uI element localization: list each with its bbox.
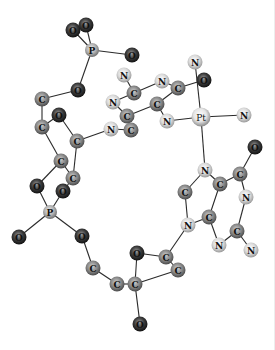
atom-label: O <box>15 233 23 243</box>
atom-label: C <box>89 264 96 274</box>
molecule-svg: OOPOOCOCCCCOOPOOCCCOCCONCNCCNNCNCONPtNNC… <box>0 0 275 350</box>
atom-label: C <box>153 100 160 110</box>
carbon-atom: C <box>171 263 186 278</box>
oxygen-atom: O <box>56 184 71 199</box>
atom-label: O <box>200 76 208 86</box>
atom-label: C <box>205 213 212 223</box>
nitrogen-atom: N <box>117 68 132 83</box>
nitrogen-atom: N <box>181 218 196 233</box>
atom-label: N <box>107 125 115 135</box>
carbon-atom: C <box>35 92 50 107</box>
oxygen-atom: O <box>75 229 90 244</box>
atom-label: C <box>131 280 138 290</box>
atom-label: N <box>191 58 199 68</box>
atom-label: O <box>128 51 136 61</box>
atom-label: O <box>74 86 82 96</box>
oxygen-atom: O <box>52 108 67 123</box>
nitrogen-atom: N <box>212 238 227 253</box>
atom-label: C <box>236 170 243 180</box>
atom-label: O <box>69 26 77 36</box>
phosphorus-atom: P <box>85 43 99 57</box>
carbon-atom: C <box>120 109 135 124</box>
carbon-atom: C <box>86 261 101 276</box>
atom-label: P <box>47 208 54 218</box>
atom-label: C <box>233 227 240 237</box>
nitrogen-atom: N <box>160 114 175 129</box>
molecule-diagram: OOPOOCOCCCCOOPOOCCCOCCONCNCCNNCNCONPtNNC… <box>0 0 275 350</box>
atom-label: C <box>127 126 134 136</box>
oxygen-atom: O <box>79 18 94 33</box>
atom-label: O <box>59 187 67 197</box>
oxygen-atom: O <box>30 179 45 194</box>
atom-label: N <box>247 246 255 256</box>
oxygen-atom: O <box>125 48 140 63</box>
nitrogen-atom: N <box>239 190 254 205</box>
oxygen-atom: O <box>71 83 86 98</box>
oxygen-atom: O <box>133 317 148 332</box>
atom-label: O <box>55 111 63 121</box>
right-border <box>274 0 275 350</box>
atom-label: C <box>174 266 181 276</box>
platinum-atom: Pt <box>192 108 211 127</box>
atom-label: C <box>130 89 137 99</box>
carbon-atom: C <box>150 97 165 112</box>
carbon-atom: C <box>159 250 174 265</box>
nitrogen-atom: N <box>198 163 213 178</box>
atom-label: N <box>120 71 128 81</box>
carbon-atom: C <box>124 123 139 138</box>
atom-label: O <box>251 143 259 153</box>
atom-label: O <box>33 182 41 192</box>
atom-label: C <box>123 112 130 122</box>
phosphorus-atom: P <box>43 205 57 219</box>
atom-label: O <box>78 232 86 242</box>
atom-label: C <box>162 253 169 263</box>
atom-label: N <box>163 117 171 127</box>
atom-label: N <box>201 166 209 176</box>
oxygen-atom: O <box>130 246 145 261</box>
carbon-atom: C <box>233 167 248 182</box>
carbon-atom: C <box>54 154 69 169</box>
atom-label: P <box>89 46 96 56</box>
atom-label: N <box>184 221 192 231</box>
nitrogen-atom: N <box>104 122 119 137</box>
oxygen-atom: O <box>66 23 81 38</box>
carbon-atom: C <box>178 185 193 200</box>
nitrogen-atom: N <box>188 55 203 70</box>
carbon-atom: C <box>110 277 125 292</box>
carbon-atom: C <box>127 86 142 101</box>
atoms-layer: OOPOOCOCCCCOOPOOCCCOCCONCNCCNNCNCONPtNNC… <box>12 18 263 332</box>
atom-label: C <box>174 84 181 94</box>
atom-label: O <box>133 249 141 259</box>
atom-label: C <box>113 280 120 290</box>
atom-label: Pt <box>196 113 206 123</box>
carbon-atom: C <box>70 134 85 149</box>
oxygen-atom: O <box>197 73 212 88</box>
nitrogen-atom: N <box>106 95 121 110</box>
atom-label: C <box>38 95 45 105</box>
carbon-atom: C <box>202 210 217 225</box>
oxygen-atom: O <box>248 140 263 155</box>
carbon-atom: C <box>171 81 186 96</box>
carbon-atom: C <box>213 177 228 192</box>
atom-label: C <box>57 157 64 167</box>
atom-label: N <box>158 77 166 87</box>
atom-label: C <box>216 180 223 190</box>
atom-label: O <box>82 21 90 31</box>
atom-label: N <box>240 111 248 121</box>
nitrogen-atom: N <box>237 108 252 123</box>
oxygen-atom: O <box>12 230 27 245</box>
carbon-atom: C <box>230 224 245 239</box>
atom-label: C <box>73 137 80 147</box>
atom-label: C <box>38 123 45 133</box>
carbon-atom: C <box>66 171 81 186</box>
carbon-atom: C <box>35 120 50 135</box>
atom-label: C <box>181 188 188 198</box>
atom-label: O <box>136 320 144 330</box>
atom-label: N <box>215 241 223 251</box>
nitrogen-atom: N <box>244 243 259 258</box>
atom-label: N <box>109 98 117 108</box>
atom-label: N <box>242 193 250 203</box>
carbon-atom: C <box>128 277 143 292</box>
atom-label: C <box>69 174 76 184</box>
nitrogen-atom: N <box>155 74 170 89</box>
